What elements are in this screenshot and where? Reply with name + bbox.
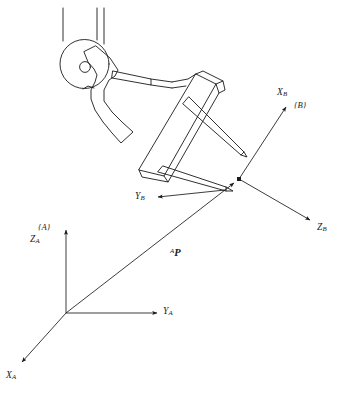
axis-label-xb-letter: X: [277, 87, 283, 97]
vector-label-symbol: P: [174, 247, 180, 258]
axis-xb-line: [239, 107, 286, 179]
gripper-finger-upper: [183, 97, 247, 157]
axis-label-zb: ZB: [317, 223, 327, 233]
axis-label-yb-subscript: B: [140, 194, 144, 201]
axis-label-xb-subscript: B: [283, 90, 287, 97]
shoulder-joint: [60, 40, 109, 89]
figure-root: {B} XB ZB YB {A} ZA YA XA AP: [0, 0, 342, 399]
axis-label-xa-letter: X: [6, 370, 12, 380]
upper-column: [63, 8, 104, 44]
vector-label-ap: AP: [170, 248, 181, 259]
axis-zb-line: [239, 179, 310, 220]
axis-label-ya-subscript: A: [168, 309, 172, 316]
axis-yb-line: [158, 190, 225, 197]
axis-label-yb: YB: [135, 192, 145, 202]
axis-label-xa: XA: [6, 371, 16, 381]
frame-a-name-label: {A}: [38, 223, 50, 232]
axis-label-zb-subscript: B: [322, 225, 326, 232]
wrist-plate: [139, 74, 219, 182]
frame-b-name-label: {B}: [294, 101, 306, 110]
robot-manipulator: [60, 8, 247, 191]
frame-a-axes: [22, 230, 157, 362]
frame-b-origin-dot: [237, 177, 241, 181]
diagram-canvas: [0, 0, 342, 399]
axis-label-xa-subscript: A: [12, 373, 16, 380]
axis-xa-line: [22, 313, 66, 362]
axis-label-xb: XB: [277, 88, 287, 98]
position-vector-ap: [66, 183, 234, 313]
axis-label-za-subscript: A: [35, 237, 39, 244]
forearm-link: [112, 71, 196, 88]
axis-label-za: ZA: [30, 235, 40, 245]
frame-b-axes: [158, 107, 310, 220]
knuckle-block: [196, 71, 225, 93]
gripper-finger-lower: [158, 166, 233, 191]
axis-label-ya: YA: [163, 307, 173, 317]
